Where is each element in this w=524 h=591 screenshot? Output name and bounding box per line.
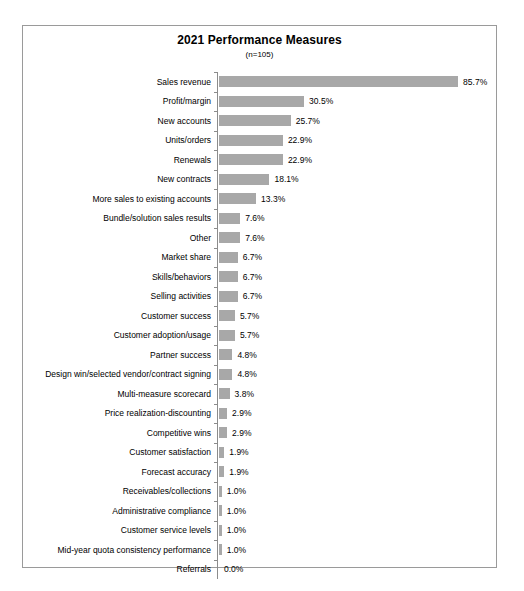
bar [219, 466, 224, 477]
bar-row: Renewals22.9% [23, 150, 498, 170]
value-label: 1.0% [227, 486, 246, 496]
chart-figure: 2021 Performance Measures (n=105) Sales … [22, 25, 497, 568]
value-label: 6.7% [243, 252, 262, 262]
value-label: 7.6% [245, 233, 264, 243]
bar [219, 349, 232, 360]
value-label: 7.6% [245, 213, 264, 223]
bar-row: Profit/margin30.5% [23, 92, 498, 112]
category-label: New accounts [23, 116, 217, 126]
category-label: Profit/margin [23, 96, 217, 106]
bar-track: 1.0% [219, 540, 498, 560]
value-label: 4.8% [237, 369, 256, 379]
bar [219, 486, 222, 497]
category-label: Selling activities [23, 291, 217, 301]
bar [219, 408, 227, 419]
bar [219, 330, 235, 341]
value-label: 4.8% [237, 350, 256, 360]
category-label: Price realization-discounting [23, 408, 217, 418]
category-label: Market share [23, 252, 217, 262]
bar-row: Other7.6% [23, 228, 498, 248]
bar [219, 388, 230, 399]
bar [219, 271, 238, 282]
category-label: Units/orders [23, 135, 217, 145]
bar-track: 18.1% [219, 170, 498, 190]
value-label: 30.5% [309, 96, 333, 106]
bar-row: Bundle/solution sales results7.6% [23, 209, 498, 229]
category-label: Customer satisfaction [23, 447, 217, 457]
category-label: Customer service levels [23, 525, 217, 535]
value-label: 18.1% [274, 174, 298, 184]
bar [219, 135, 283, 146]
bar-track: 2.9% [219, 404, 498, 424]
bar [219, 174, 269, 185]
category-label: Referrals [23, 564, 217, 574]
bar-track: 7.6% [219, 209, 498, 229]
bar-track: 13.3% [219, 189, 498, 209]
category-label: Administrative compliance [23, 506, 217, 516]
bar [219, 291, 238, 302]
bar-track: 4.8% [219, 345, 498, 365]
category-label: Competitive wins [23, 428, 217, 438]
bar-track: 1.0% [219, 521, 498, 541]
category-label: Forecast accuracy [23, 467, 217, 477]
bar-track: 5.7% [219, 326, 498, 346]
bar-track: 22.9% [219, 150, 498, 170]
chart-subtitle: (n=105) [23, 49, 496, 60]
bar-track: 1.0% [219, 482, 498, 502]
bar-row: Customer service levels1.0% [23, 521, 498, 541]
bar [219, 232, 240, 243]
bar-track: 6.7% [219, 267, 498, 287]
bar-row: Partner success4.8% [23, 345, 498, 365]
category-label: New contracts [23, 174, 217, 184]
bar [219, 525, 222, 536]
value-label: 85.7% [463, 77, 487, 87]
bar-track: 1.9% [219, 443, 498, 463]
value-label: 6.7% [243, 272, 262, 282]
page-title: 2021 Performance Measures [23, 33, 496, 48]
bar-row: Multi-measure scorecard3.8% [23, 384, 498, 404]
bar [219, 193, 256, 204]
bar [219, 369, 232, 380]
bar-track: 7.6% [219, 228, 498, 248]
value-label: 1.0% [227, 525, 246, 535]
bar [219, 427, 227, 438]
value-label: 13.3% [261, 194, 285, 204]
category-label: Design win/selected vendor/contract sign… [23, 369, 217, 379]
category-label: Bundle/solution sales results [23, 213, 217, 223]
value-label: 6.7% [243, 291, 262, 301]
bar-row: Mid-year quota consistency performance1.… [23, 540, 498, 560]
bar-row: Units/orders22.9% [23, 131, 498, 151]
category-label: Multi-measure scorecard [23, 389, 217, 399]
bar-row: Customer success5.7% [23, 306, 498, 326]
category-label: Skills/behaviors [23, 272, 217, 282]
bar [219, 252, 238, 263]
bar-row: Referrals0.0% [23, 560, 498, 580]
bar-row: Market share6.7% [23, 248, 498, 268]
value-label: 22.9% [288, 135, 312, 145]
bar [219, 96, 304, 107]
chart-title-block: 2021 Performance Measures (n=105) [23, 33, 496, 60]
bar-track: 4.8% [219, 365, 498, 385]
value-label: 3.8% [235, 389, 254, 399]
bar-track: 5.7% [219, 306, 498, 326]
value-label: 5.7% [240, 311, 259, 321]
bar-row: New accounts25.7% [23, 111, 498, 131]
value-label: 2.9% [232, 408, 251, 418]
value-label: 1.9% [229, 467, 248, 477]
value-label: 1.0% [227, 545, 246, 555]
bar-track: 6.7% [219, 287, 498, 307]
bar-row: Administrative compliance1.0% [23, 501, 498, 521]
category-label: Renewals [23, 155, 217, 165]
bar [219, 115, 291, 126]
value-label: 22.9% [288, 155, 312, 165]
bar-track: 0.0% [219, 560, 498, 580]
category-label: More sales to existing accounts [23, 194, 217, 204]
category-label: Receivables/collections [23, 486, 217, 496]
bar-row: Forecast accuracy1.9% [23, 462, 498, 482]
category-label: Customer adoption/usage [23, 330, 217, 340]
bar-track: 1.9% [219, 462, 498, 482]
bar-row: More sales to existing accounts13.3% [23, 189, 498, 209]
bar-row: Skills/behaviors6.7% [23, 267, 498, 287]
category-label: Customer success [23, 311, 217, 321]
value-label: 1.0% [227, 506, 246, 516]
